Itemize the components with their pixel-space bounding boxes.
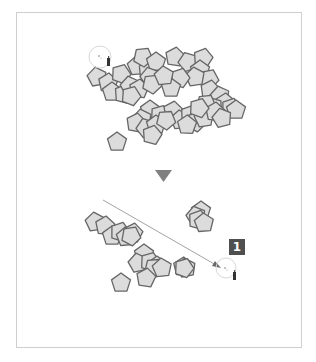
after-pentagon-clusters bbox=[84, 201, 214, 291]
diagram-canvas bbox=[0, 0, 316, 362]
before-cursor-spray-can-icon bbox=[89, 46, 111, 68]
after-cursor-spray-can-icon bbox=[216, 258, 236, 280]
pentagon-shape bbox=[108, 132, 127, 150]
pentagon-shape bbox=[112, 273, 131, 291]
step-number-badge: 1 bbox=[229, 239, 245, 255]
down-triangle-arrow-icon bbox=[155, 170, 172, 182]
